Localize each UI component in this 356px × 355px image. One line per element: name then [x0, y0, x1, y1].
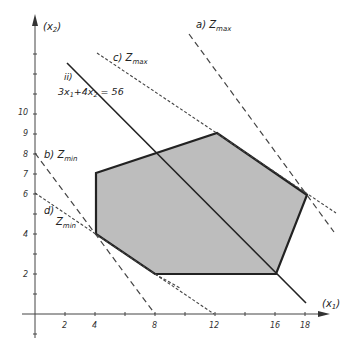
y-tick-label: 8 [23, 150, 28, 159]
label-a-zmax: a) Zmax [196, 19, 232, 33]
lp-diagram: 2 4 8 12 16 18 2 4 6 7 8 9 10 (x1) (x2) … [0, 0, 356, 355]
label-b-zmin: b) Zmin [44, 149, 77, 163]
feasible-region [96, 133, 307, 274]
label-c-zmax: c) Zmax [113, 52, 149, 66]
y-tick-label: 2 [23, 270, 28, 279]
x-tick-label: 12 [209, 321, 219, 330]
y-tick-label: 9 [23, 129, 28, 138]
constraint-equation: 3x1+4x2 = 56 [58, 86, 124, 99]
label-d-prefix: d) [44, 205, 54, 216]
x-tick-label: 8 [152, 321, 157, 330]
y-tick-label: 6 [23, 190, 28, 199]
x-tick-label: 4 [92, 321, 97, 330]
y-axis-arrow [32, 14, 38, 26]
y-tick-label: 7 [23, 170, 29, 179]
x-tick-label: 2 [62, 321, 67, 330]
y-axis-label: (x2) [43, 21, 61, 34]
dotted-extension [155, 274, 180, 288]
x-tick-label: 16 [270, 321, 280, 330]
label-ii: ii) [64, 72, 73, 82]
x-tick-label: 18 [300, 321, 310, 330]
y-tick-label: 4 [23, 230, 28, 239]
x-axis-label: (x1) [322, 298, 340, 311]
y-tick-label: 10 [18, 108, 28, 117]
x-axis-arrow [318, 311, 330, 317]
